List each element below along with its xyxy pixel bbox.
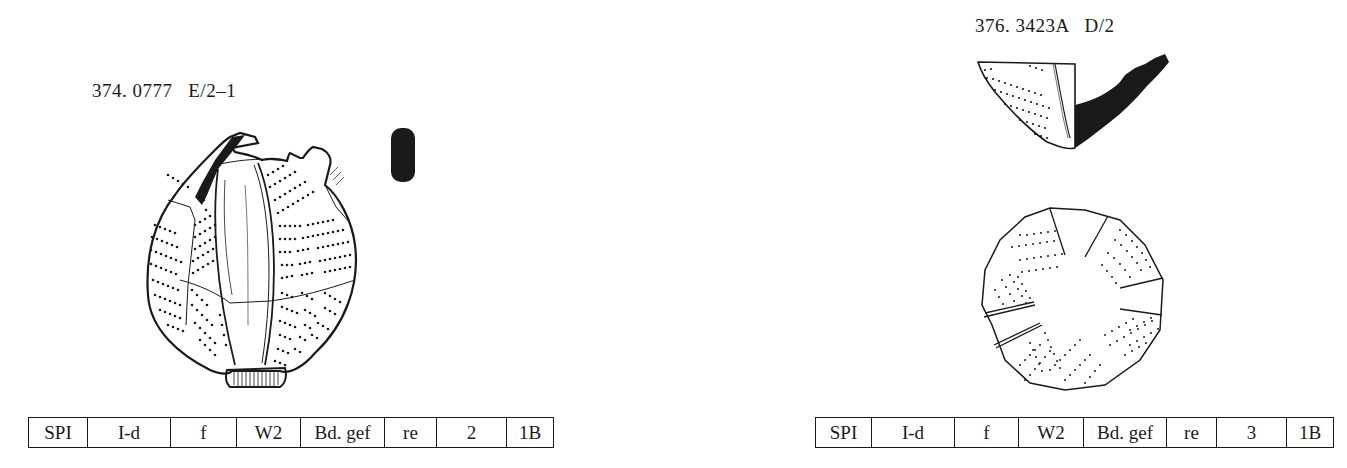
- attr-cell: W2: [1019, 418, 1084, 448]
- attr-cell: 3: [1217, 418, 1287, 448]
- attr-cell: 1B: [1287, 418, 1334, 448]
- attr-cell: I-d: [872, 418, 955, 448]
- attr-cell: I-d: [88, 418, 171, 448]
- base-fragment-profile-376: [975, 50, 1175, 152]
- attr-cell: SPI: [816, 418, 872, 448]
- attr-cell: re: [385, 418, 437, 448]
- attr-cell: Bd. gef: [1084, 418, 1167, 448]
- wall-section-profile-374: [388, 126, 418, 184]
- attr-cell: re: [1167, 418, 1217, 448]
- attr-cell: W2: [237, 418, 301, 448]
- attr-cell: 1B: [507, 418, 554, 448]
- catalog-label-376: 376. 3423A D/2: [975, 15, 1114, 37]
- attr-cell: Bd. gef: [301, 418, 385, 448]
- catalog-label-374: 374. 0777 E/2–1: [92, 80, 236, 102]
- attr-cell: 2: [437, 418, 507, 448]
- attribute-table-376: SPI I-d f W2 Bd. gef re 3 1B: [815, 417, 1334, 448]
- vessel-side-view-374: [140, 125, 380, 400]
- attr-cell: f: [171, 418, 237, 448]
- attr-cell: SPI: [29, 418, 88, 448]
- attr-cell: f: [955, 418, 1019, 448]
- attribute-table-374: SPI I-d f W2 Bd. gef re 2 1B: [28, 417, 554, 448]
- base-top-view-376: [980, 205, 1170, 395]
